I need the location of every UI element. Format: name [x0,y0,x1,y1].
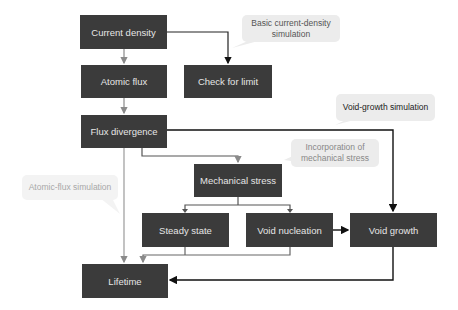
node-check-for-limit: Check for limit [184,65,272,98]
arrow-flux-to-mech [142,148,238,162]
node-current-density: Current density [80,15,167,49]
callout-mechanical-stress: Incorporation of mechanical stress [291,139,379,167]
callout-void-growth-simulation: Void-growth simulation [336,94,435,121]
node-mechanical-stress: Mechanical stress [194,164,282,197]
line-mech-branches [185,205,290,211]
node-lifetime: Lifetime [82,264,168,298]
node-void-growth: Void growth [350,213,437,247]
arrow-growth-to-lifetime [170,247,393,280]
arrow-states-to-lifetime [143,247,290,262]
node-steady-state: Steady state [142,213,229,247]
connectors [0,0,458,310]
arrow-current-to-check [167,32,228,63]
node-atomic-flux: Atomic flux [81,65,167,98]
callout-atomic-flux-simulation: Atomic-flux simulation [22,175,118,200]
node-void-nucleation: Void nucleation [246,213,333,247]
callout-basic-current-density: Basic current-density simulation [242,15,340,42]
node-flux-divergence: Flux divergence [81,115,167,148]
callout-tail-atomic-flux [100,198,120,214]
